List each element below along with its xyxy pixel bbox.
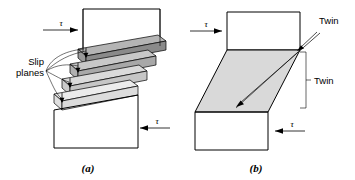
panel-a-bottom-shear-arrow: τ	[140, 116, 170, 131]
slip-planes-label-line1: Slip	[28, 56, 44, 67]
panel-b-top-block-outline	[227, 12, 300, 50]
twin-parallelogram	[195, 50, 300, 112]
panel-b-bottom-shear-arrow: τ	[275, 119, 305, 134]
panel-a-caption: (a)	[82, 162, 95, 175]
top-shear-arrowhead	[70, 27, 78, 33]
twin-extent-brace	[300, 52, 311, 108]
twin-planes-label-line1: Twin	[319, 15, 339, 26]
panel-b-top-shear-arrow: τ	[190, 19, 222, 34]
slip-planes-label: Slip planes	[16, 56, 44, 78]
panel-b-twinning: τ τ Twin	[190, 12, 339, 175]
panel-b-bottom-shear-arrowhead	[275, 128, 283, 134]
panel-b-top-block	[227, 12, 300, 50]
panel-b-bottom-block	[195, 112, 268, 150]
figure-container: τ τ	[0, 0, 355, 180]
panel-b-bottom-shear-tau-symbol: τ	[290, 119, 294, 129]
bottom-shear-tau-symbol: τ	[155, 116, 159, 126]
panel-a-slip: τ τ	[16, 9, 170, 175]
slip-step-stack	[54, 35, 166, 110]
panel-b-top-shear-arrowhead	[214, 28, 222, 34]
panel-a-top-shear-arrow: τ	[43, 18, 78, 33]
panel-b-caption: (b)	[250, 162, 263, 175]
panel-b-bottom-block-outline	[195, 112, 268, 150]
figure-svg: τ τ	[0, 0, 355, 180]
twin-band-face	[195, 50, 300, 112]
panel-b-top-shear-tau-symbol: τ	[204, 19, 208, 29]
twin-planes-label: Twin	[319, 15, 339, 26]
twin-planes-leader-1	[300, 32, 317, 48]
twin-brace-bracket	[300, 52, 306, 108]
bottom-shear-arrowhead	[140, 125, 148, 131]
slip-planes-label-line2: planes	[16, 67, 44, 78]
top-shear-tau-symbol: τ	[59, 18, 63, 28]
twin-region-label: Twin	[314, 75, 334, 86]
